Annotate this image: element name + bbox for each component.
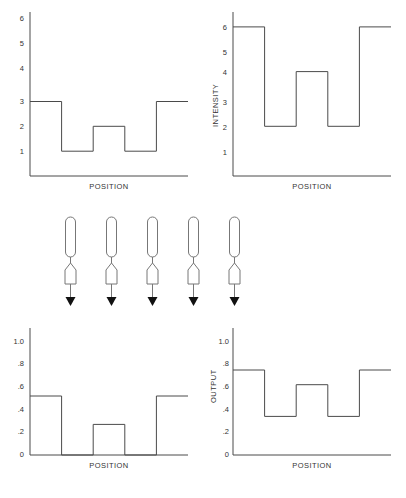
xaxis-label: POSITION	[233, 182, 391, 191]
panel-bottom-right: 1.0 .8 .6 .4 .2 0 OUTPUT POSITION	[203, 320, 406, 498]
detector-unit-1	[65, 217, 76, 306]
ytick-4: 4	[211, 68, 227, 77]
step-trace	[30, 396, 188, 455]
yaxis-label: OUTPUT	[209, 369, 218, 403]
ytick-6: 6	[211, 23, 227, 32]
ytick-p8: .8	[208, 359, 229, 368]
xaxis-label: POSITION	[30, 182, 188, 191]
panel-bottom-left: 1.0 .8 .6 .4 .2 0 POSITION	[0, 320, 203, 498]
pentagon-icon	[229, 263, 240, 284]
top-right-plot-svg	[203, 0, 406, 200]
ytick-p8: .8	[3, 359, 24, 368]
pentagon-icon	[106, 263, 117, 284]
bottom-left-plot-svg	[0, 320, 203, 498]
ytick-p4: .4	[3, 405, 24, 414]
xaxis-label: POSITION	[233, 461, 391, 470]
ytick-0: 0	[3, 450, 24, 459]
ytick-0: 0	[208, 450, 229, 459]
detector-array	[0, 205, 406, 315]
ytick-1: 1	[8, 147, 24, 156]
detector-unit-3	[147, 217, 158, 306]
ytick-5: 5	[8, 39, 24, 48]
ytick-1: 1	[211, 148, 227, 157]
detector-unit-5	[229, 217, 240, 306]
arrow-head-icon	[230, 297, 240, 306]
capsule-icon	[148, 217, 158, 257]
ytick-1p0: 1.0	[3, 337, 24, 346]
ytick-5: 5	[211, 48, 227, 57]
ytick-6: 6	[8, 14, 24, 23]
ytick-2: 2	[8, 122, 24, 131]
arrow-head-icon	[148, 297, 158, 306]
arrow-head-icon	[107, 297, 117, 306]
top-left-plot-svg	[0, 0, 203, 200]
detector-unit-2	[106, 217, 117, 306]
step-trace	[233, 27, 391, 126]
step-trace	[233, 370, 391, 416]
arrow-head-icon	[189, 297, 199, 306]
bottom-right-plot-svg	[203, 320, 406, 498]
pentagon-icon	[188, 263, 199, 284]
ytick-3: 3	[8, 97, 24, 106]
panel-top-right: 6 5 4 3 2 1 INTENSITY POSITION	[203, 0, 406, 200]
ytick-p2: .2	[208, 427, 229, 436]
capsule-icon	[189, 217, 199, 257]
ytick-p2: .2	[3, 427, 24, 436]
capsule-icon	[230, 217, 240, 257]
step-trace	[30, 102, 188, 152]
ytick-p6: .6	[3, 382, 24, 391]
panel-top-left: 6 5 4 3 2 1 POSITION	[0, 0, 203, 200]
ytick-4: 4	[8, 64, 24, 73]
capsule-icon	[107, 217, 117, 257]
capsule-icon	[66, 217, 76, 257]
detector-array-svg	[0, 205, 406, 315]
figure-root: 6 5 4 3 2 1 POSITION 6 5 4 3 2 1 INTENSI…	[0, 0, 406, 498]
arrow-head-icon	[66, 297, 76, 306]
xaxis-label: POSITION	[30, 461, 188, 470]
detector-unit-4	[188, 217, 199, 306]
pentagon-icon	[147, 263, 158, 284]
ytick-1p0: 1.0	[208, 337, 229, 346]
ytick-p4: .4	[208, 405, 229, 414]
yaxis-label: INTENSITY	[211, 84, 220, 127]
pentagon-icon	[65, 263, 76, 284]
